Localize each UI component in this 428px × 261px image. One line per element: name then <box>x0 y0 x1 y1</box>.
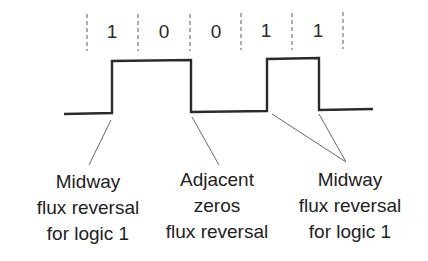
flux-waveform <box>64 58 373 114</box>
label-line: Midway <box>318 169 383 190</box>
leader-line-left <box>89 120 111 165</box>
leader-line-right-a <box>272 114 346 162</box>
bit-value: 1 <box>261 20 272 41</box>
label-line: zeros <box>194 195 240 216</box>
label-line: Adjacent <box>180 169 255 190</box>
bit-value: 0 <box>211 21 222 42</box>
label-left: Midway flux reversal for logic 1 <box>37 171 139 244</box>
label-line: Midway <box>56 171 121 192</box>
label-line: flux reversal <box>166 221 268 242</box>
leader-line-right-b <box>319 114 346 162</box>
leader-line-middle <box>192 117 219 165</box>
label-middle: Adjacent zeros flux reversal <box>166 169 268 242</box>
label-line: for logic 1 <box>47 223 129 244</box>
label-right: Midway flux reversal for logic 1 <box>299 169 401 242</box>
bit-value: 1 <box>107 21 118 42</box>
label-line: flux reversal <box>299 195 401 216</box>
leader-lines <box>89 114 346 165</box>
bit-value: 1 <box>313 20 324 41</box>
label-line: flux reversal <box>37 197 139 218</box>
bit-values: 1 0 0 1 1 <box>107 20 324 42</box>
bit-value: 0 <box>159 21 170 42</box>
mfm-waveform-diagram: 1 0 0 1 1 Midway flux reversal for logic… <box>0 0 428 261</box>
label-line: for logic 1 <box>309 221 391 242</box>
